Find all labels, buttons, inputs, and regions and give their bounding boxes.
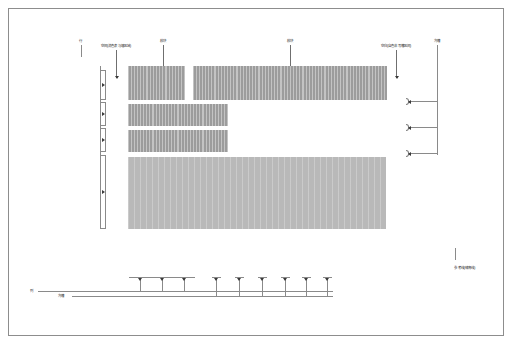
block-cell: [203, 130, 228, 152]
gap-left-leader-arrow: [116, 50, 117, 78]
block-cell: [347, 66, 369, 100]
dim-bar: [105, 102, 106, 126]
block-cell: [153, 104, 178, 126]
bottom-tick-2: [235, 277, 244, 296]
drawing-sheet: 行 空间(消色表与墙区域) 模块 模块 空白(自色非写槽区间) 沟槽 参考线(辅…: [0, 0, 514, 346]
marker-arrow: [325, 278, 329, 281]
bottom-tick-5: [302, 277, 311, 296]
bottom-span-1: [129, 277, 151, 291]
bottom-tick-3: [258, 277, 267, 296]
block-cell: [153, 130, 178, 152]
block-cell: [147, 66, 166, 100]
row-axis-tick: [81, 45, 82, 57]
block-cell: [128, 66, 147, 100]
marker-arrow: [138, 278, 142, 281]
right-bracket-spine: [437, 98, 438, 153]
row-1: [128, 66, 387, 100]
bottom-span-3: [173, 277, 195, 291]
dim-arrow: [102, 112, 105, 116]
block-cell: [259, 66, 281, 100]
block-cell: [166, 66, 185, 100]
bracket-arrow: [408, 100, 411, 104]
bracket-stem: [409, 153, 437, 154]
block-cell: [178, 130, 203, 152]
bottom-span-2: [151, 277, 173, 291]
bracket-stem: [409, 101, 437, 102]
column-axis-label: 列: [30, 289, 33, 293]
bottom-tick-1: [212, 277, 221, 296]
block-cell: [237, 66, 259, 100]
dim-bar: [105, 128, 106, 152]
marker-arrow: [283, 278, 287, 281]
main-slab-block: [128, 157, 386, 229]
reference-note-tick: [455, 248, 456, 260]
marker-arrow: [182, 278, 186, 281]
right-bracket-1: [406, 98, 437, 106]
gap-right-label: 空白(自色非写槽区间): [381, 44, 411, 48]
row-axis-label: 行: [79, 39, 82, 43]
block-cell: [281, 66, 303, 100]
left-dim-3: [100, 128, 112, 152]
block-cell: [303, 66, 325, 100]
dim-bar: [105, 70, 106, 100]
left-dim-1: [100, 70, 112, 100]
marker-arrow: [237, 278, 241, 281]
marker-arrow: [260, 278, 264, 281]
right-bracket-3: [406, 150, 437, 158]
bracket-stem: [409, 127, 437, 128]
block-gap: [185, 66, 193, 100]
marker-arrow: [214, 278, 218, 281]
gap-right-leader-arrow: [396, 50, 397, 78]
bracket-arrow: [408, 126, 411, 130]
module-right-label: 模块: [287, 39, 293, 43]
bracket-arrow: [408, 152, 411, 156]
dim-bar: [105, 155, 106, 229]
row-3: [128, 130, 228, 152]
block-cell: [128, 130, 153, 152]
block-cell: [178, 104, 203, 126]
block-cell: [215, 66, 237, 100]
block-cell: [193, 66, 215, 100]
row-2: [128, 104, 228, 126]
block-cell: [128, 104, 153, 126]
marker-arrow: [160, 278, 164, 281]
dim-arrow: [102, 138, 105, 142]
groove-bottom-line: [72, 296, 333, 297]
dim-arrow: [102, 190, 105, 194]
groove-top-right-label: 沟槽: [434, 39, 440, 43]
groove-bottom-label: 沟槽: [58, 294, 64, 298]
marker-arrow: [304, 278, 308, 281]
reference-note-label: 参考线(辅育线): [454, 266, 475, 270]
gap-left-label: 空间(消色表与墙区域): [101, 44, 131, 48]
bottom-tick-6: [323, 277, 332, 296]
left-dim-2: [100, 102, 112, 126]
block-cell: [325, 66, 347, 100]
left-dim-4: [100, 155, 112, 229]
block-cell: [203, 104, 228, 126]
bottom-tick-4: [281, 277, 290, 296]
module-left-label: 模块: [160, 39, 166, 43]
block-cell: [369, 66, 387, 100]
dim-arrow: [102, 83, 105, 87]
right-bracket-2: [406, 124, 437, 132]
